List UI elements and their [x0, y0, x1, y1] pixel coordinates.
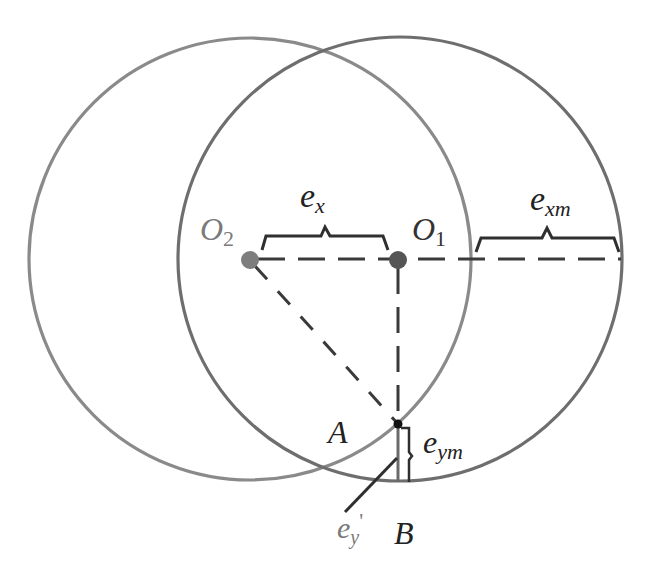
label-O2: O2 [200, 211, 234, 251]
label-eym: eym [423, 424, 463, 464]
label-O1: O1 [412, 211, 446, 251]
point-O2 [241, 251, 259, 269]
point-O1 [389, 251, 407, 269]
eccentricity-diagram: O2 O1 ex exm A eym ey' B [0, 0, 648, 574]
diagram-canvas: O2 O1 ex exm A eym ey' B [0, 0, 648, 574]
ex-bracket [262, 227, 388, 250]
label-B: B [394, 515, 414, 551]
diagonal-dashed-line [255, 266, 398, 424]
ey-prime-leader [345, 458, 397, 512]
label-A: A [326, 414, 348, 450]
label-ex: ex [300, 177, 325, 218]
label-exm: exm [530, 180, 571, 221]
label-ey-prime: ey' [337, 508, 363, 549]
eym-bracket [401, 428, 412, 482]
exm-bracket [476, 228, 619, 252]
point-A [394, 420, 403, 429]
